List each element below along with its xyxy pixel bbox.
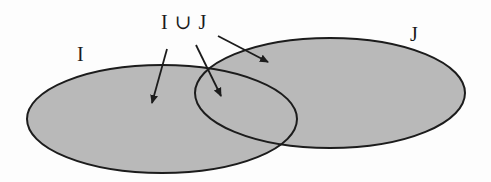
union-label: I ∪ J [161,12,207,32]
set-j-label: J [410,24,418,44]
set-i-label: I [77,44,84,64]
venn-diagram: I ∪ J I J [0,0,491,182]
